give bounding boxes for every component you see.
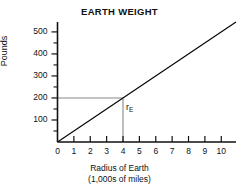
annotation-subscript: E xyxy=(129,106,133,113)
earth-radius-annotation: rE xyxy=(126,102,133,112)
y-tick-label: 100 xyxy=(18,115,48,124)
y-axis-major-ticks xyxy=(52,32,58,120)
x-tick-label: 5 xyxy=(132,147,146,156)
data-series-line xyxy=(58,22,237,142)
x-tick-label: 4 xyxy=(116,147,130,156)
x-tick-label: 0 xyxy=(51,147,65,156)
x-tick-label: 9 xyxy=(198,147,212,156)
earth-weight-chart: EARTH WEIGHT Pounds 100200300400500 0123… xyxy=(0,0,239,192)
x-tick-label: 1 xyxy=(67,147,81,156)
y-tick-label: 300 xyxy=(18,71,48,80)
x-tick-label: 7 xyxy=(165,147,179,156)
x-tick-label: 8 xyxy=(182,147,196,156)
x-tick-label: 3 xyxy=(100,147,114,156)
x-tick-label: 10 xyxy=(214,147,228,156)
y-tick-label: 400 xyxy=(18,49,48,58)
x-tick-label: 2 xyxy=(83,147,97,156)
y-tick-label: 500 xyxy=(18,27,48,36)
x-axis-label-line2: (1,000s of miles) xyxy=(0,174,239,185)
x-tick-label: 6 xyxy=(149,147,163,156)
x-axis-label: Radius of Earth (1,000s of miles) xyxy=(0,163,239,185)
x-axis-ticks xyxy=(74,136,221,142)
x-axis-label-line1: Radius of Earth xyxy=(0,163,239,174)
y-tick-label: 200 xyxy=(18,93,48,102)
